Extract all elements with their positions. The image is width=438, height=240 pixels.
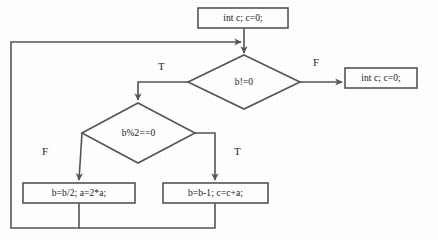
edge-decrement-to-rail	[79, 203, 215, 228]
flowchart-graphics	[0, 0, 438, 240]
edge-cond-loop-true-to-cond-even	[138, 82, 188, 100]
edge-label-cond-even-true: T	[234, 145, 241, 157]
edge-layer	[11, 8, 417, 228]
node-exit-shape	[345, 68, 417, 88]
edge-cond-even-false-to-halve	[79, 133, 82, 180]
flowchart-canvas: int c; c=0; b!=0 int c; c=0; b%2==0 b=b/…	[0, 0, 438, 240]
node-cond-loop-shape	[188, 55, 300, 109]
node-decrement-shape	[163, 183, 268, 203]
node-cond-even-shape	[82, 103, 195, 163]
edge-label-cond-even-false: F	[42, 145, 48, 157]
node-halve-shape	[23, 183, 135, 203]
edge-label-cond-loop-true: T	[158, 60, 165, 72]
edge-cond-even-true-to-decrement	[195, 133, 215, 180]
node-init-shape	[198, 8, 288, 28]
edge-label-cond-loop-false: F	[313, 56, 319, 68]
